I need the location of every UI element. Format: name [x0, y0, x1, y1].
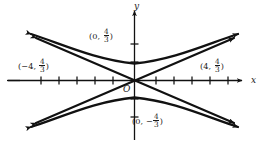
denominator: 3 — [215, 66, 221, 74]
paren-close: ) — [221, 62, 224, 70]
denominator: 3 — [104, 36, 110, 44]
origin-label: O — [123, 85, 130, 94]
comma: , — [34, 62, 37, 70]
x-axis-label: x — [251, 76, 256, 85]
annotation-right-point: (4, 43) — [200, 58, 224, 74]
annotation-left-point: (−4, 43) — [18, 58, 49, 74]
paren-close: ) — [160, 117, 163, 125]
denominator: 3 — [39, 66, 45, 74]
comma: , — [141, 117, 144, 125]
denominator: 3 — [153, 121, 159, 129]
comma: , — [209, 62, 212, 70]
fraction: 43 — [153, 113, 159, 129]
paren-close: ) — [46, 62, 49, 70]
paren-close: ) — [110, 32, 113, 40]
x-value: −4 — [21, 62, 33, 70]
fraction: 43 — [104, 28, 110, 44]
y-axis-label: y — [134, 2, 139, 11]
fraction: 43 — [215, 58, 221, 74]
annotation-top-vertex: (0, 43) — [89, 28, 113, 44]
hyperbola-figure: (0, 43) (−4, 43) (4, 43) (0, −43) y x O — [0, 0, 270, 148]
fraction: 43 — [39, 58, 45, 74]
annotation-bottom-vertex: (0, −43) — [132, 113, 163, 129]
sign: − — [146, 117, 153, 125]
comma: , — [98, 32, 101, 40]
